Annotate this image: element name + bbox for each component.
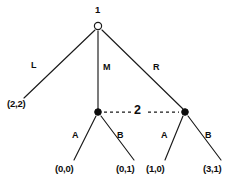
payoff-label-RB: (3,1) (203, 164, 222, 174)
player-label-root: 1 (95, 5, 100, 15)
payoff-label-MA: (0,0) (55, 164, 74, 174)
action-label-A-right: A (161, 131, 168, 140)
edge-root-R (102, 30, 183, 109)
node-root-player1 (94, 22, 101, 29)
action-label-B-right: B (205, 131, 212, 140)
payoff-label-RA: (1,0) (146, 164, 165, 174)
action-label-B-left: B (117, 131, 124, 140)
payoff-label-MB: (0,1) (116, 164, 135, 174)
tree-graphics (0, 0, 245, 178)
action-label-M: M (103, 63, 111, 72)
node-player2-right (182, 109, 189, 116)
action-label-A-left: A (72, 131, 79, 140)
game-tree-diagram: 1 L M R 2 A B A B (2,2) (0,0) (0,1) (1,0… (0, 0, 245, 178)
node-player2-left (95, 109, 102, 116)
payoff-label-L: (2,2) (7, 99, 26, 109)
infoset-label-player2: 2 (134, 104, 141, 117)
action-label-L: L (31, 61, 37, 70)
action-label-R: R (153, 63, 160, 72)
